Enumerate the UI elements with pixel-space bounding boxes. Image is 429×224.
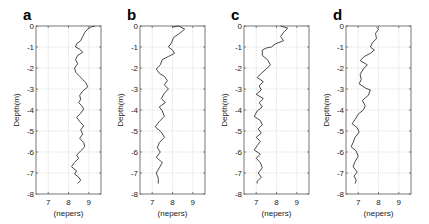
y-tick-label: -5 (235, 127, 243, 136)
y-tick-label: -4 (337, 106, 345, 115)
panel-c: 7890-1-2-3-4-5-6-7-8(nepers)Depth(m)c (220, 6, 309, 218)
y-tick-label: -1 (27, 43, 35, 52)
x-tick-label: 8 (376, 198, 381, 207)
y-tick-label: -3 (27, 85, 35, 94)
x-tick-label: 7 (150, 198, 155, 207)
y-tick-label: -5 (27, 127, 35, 136)
x-axis-title: (nepers) (158, 209, 188, 218)
x-tick-label: 8 (66, 198, 71, 207)
y-tick-label: -2 (337, 64, 345, 73)
panel-label: c (231, 6, 239, 23)
y-tick-label: -5 (131, 127, 139, 136)
y-tick-label: -4 (131, 106, 139, 115)
y-axis-title: Depth(m) (116, 93, 125, 127)
y-tick-label: -7 (337, 169, 345, 178)
y-tick-label: -6 (27, 148, 35, 157)
y-tick-label: -8 (131, 190, 139, 199)
x-tick-label: 8 (170, 198, 175, 207)
x-tick-label: 7 (46, 198, 51, 207)
x-tick-label: 9 (295, 198, 300, 207)
y-tick-label: -4 (27, 106, 35, 115)
y-tick-label: -3 (131, 85, 139, 94)
x-tick-label: 8 (274, 198, 279, 207)
y-axis-title: Depth(m) (220, 93, 229, 127)
y-tick-label: -2 (131, 64, 139, 73)
x-tick-label: 7 (254, 198, 259, 207)
y-tick-label: -8 (337, 190, 345, 199)
y-tick-label: -5 (337, 127, 345, 136)
y-tick-label: -2 (27, 64, 35, 73)
y-tick-label: 0 (340, 22, 345, 31)
y-tick-label: -8 (27, 190, 35, 199)
y-axis-title: Depth(m) (12, 93, 21, 127)
y-tick-label: -1 (131, 43, 139, 52)
x-axis-title: (nepers) (262, 209, 292, 218)
y-tick-label: -6 (131, 148, 139, 157)
y-tick-label: -6 (235, 148, 243, 157)
x-tick-label: 9 (397, 198, 402, 207)
panel-d: 7890-1-2-3-4-5-6-7-8(nepers)Depth(m)d (322, 6, 411, 218)
y-tick-label: -4 (235, 106, 243, 115)
y-tick-label: -6 (337, 148, 345, 157)
y-tick-label: 0 (134, 22, 139, 31)
x-tick-label: 9 (191, 198, 196, 207)
y-tick-label: -3 (235, 85, 243, 94)
y-axis-title: Depth(m) (322, 93, 331, 127)
panel-label: d (333, 6, 342, 23)
x-axis-title: (nepers) (54, 209, 84, 218)
y-tick-label: 0 (238, 22, 243, 31)
y-tick-label: -7 (235, 169, 243, 178)
panel-a: 7890-1-2-3-4-5-6-7-8(nepers)Depth(m)a (12, 6, 101, 218)
panel-label: b (127, 6, 136, 23)
depth-profile-charts: 7890-1-2-3-4-5-6-7-8(nepers)Depth(m)a789… (0, 0, 429, 224)
y-tick-label: -2 (235, 64, 243, 73)
y-tick-label: 0 (30, 22, 35, 31)
panel-label: a (23, 6, 32, 23)
data-line (351, 27, 378, 183)
y-tick-label: -7 (27, 169, 35, 178)
x-axis-title: (nepers) (364, 209, 394, 218)
y-tick-label: -1 (235, 43, 243, 52)
y-tick-label: -8 (235, 190, 243, 199)
panel-b: 7890-1-2-3-4-5-6-7-8(nepers)Depth(m)b (116, 6, 205, 218)
y-tick-label: -7 (131, 169, 139, 178)
x-tick-label: 9 (87, 198, 92, 207)
data-line (254, 26, 288, 184)
data-line (72, 26, 95, 184)
data-line (155, 26, 185, 184)
y-tick-label: -1 (337, 43, 345, 52)
figure: 7890-1-2-3-4-5-6-7-8(nepers)Depth(m)a789… (0, 0, 429, 224)
x-tick-label: 7 (356, 198, 361, 207)
y-tick-label: -3 (337, 85, 345, 94)
